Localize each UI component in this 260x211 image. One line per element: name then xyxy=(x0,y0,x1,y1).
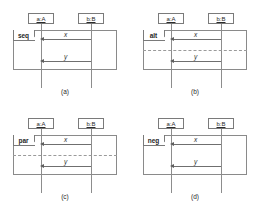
lifeline-label-right: b:B xyxy=(216,121,225,127)
panel-caption: (c) xyxy=(0,193,130,200)
message-line-x xyxy=(44,39,91,40)
message-arrowhead-y xyxy=(170,164,174,168)
sequence-diagram-figure: a:A b:B seq x y (a) a:A xyxy=(0,0,260,211)
message-arrowhead-y xyxy=(40,59,44,63)
message-label-x: x xyxy=(194,31,197,38)
message-arrowhead-x xyxy=(40,142,44,146)
lifeline-label-left: a:A xyxy=(36,16,45,22)
fragment-operator-tag-outline xyxy=(143,30,165,41)
panel-b: a:A b:B alt x y (b) xyxy=(130,0,260,105)
lifeline-head-right: b:B xyxy=(208,118,234,129)
panel-a: a:A b:B seq x y (a) xyxy=(0,0,130,105)
message-arrowhead-x xyxy=(170,37,174,41)
message-label-y: y xyxy=(194,158,197,165)
lifeline-head-right: b:B xyxy=(208,13,234,24)
lifeline-head-left: a:A xyxy=(158,118,184,129)
operand-divider xyxy=(143,50,247,51)
panel-caption: (d) xyxy=(130,193,260,200)
message-label-y: y xyxy=(194,53,197,60)
lifeline-head-right: b:B xyxy=(78,13,104,24)
message-label-x: x xyxy=(64,31,67,38)
fragment-operator-tag-outline xyxy=(13,30,35,41)
lifeline-label-right: b:B xyxy=(86,16,95,22)
panel-caption: (a) xyxy=(0,88,130,95)
lifeline-label-left: a:A xyxy=(36,121,45,127)
message-line-y xyxy=(174,61,221,62)
message-line-x xyxy=(174,39,221,40)
message-arrowhead-y xyxy=(170,59,174,63)
lifeline-label-left: a:A xyxy=(166,16,175,22)
message-label-y: y xyxy=(64,53,67,60)
message-arrowhead-x xyxy=(170,142,174,146)
lifeline-head-left: a:A xyxy=(158,13,184,24)
fragment-operator-tag-outline xyxy=(13,135,35,146)
panel-caption: (b) xyxy=(130,88,260,95)
lifeline-head-left: a:A xyxy=(28,118,54,129)
message-line-y xyxy=(44,61,91,62)
message-label-x: x xyxy=(64,136,67,143)
message-label-y: y xyxy=(64,158,67,165)
message-line-x xyxy=(174,144,221,145)
lifeline-head-left: a:A xyxy=(28,13,54,24)
lifeline-head-right: b:B xyxy=(78,118,104,129)
message-arrowhead-x xyxy=(40,37,44,41)
lifeline-label-left: a:A xyxy=(166,121,175,127)
message-label-x: x xyxy=(194,136,197,143)
message-line-y xyxy=(174,166,221,167)
lifeline-label-right: b:B xyxy=(86,121,95,127)
message-line-y xyxy=(44,166,91,167)
message-arrowhead-y xyxy=(40,164,44,168)
operand-divider xyxy=(13,155,117,156)
message-line-x xyxy=(44,144,91,145)
fragment-operator-tag-outline xyxy=(143,135,165,146)
panel-d: a:A b:B neg x y (d) xyxy=(130,105,260,210)
panel-c: a:A b:B par x y (c) xyxy=(0,105,130,210)
lifeline-label-right: b:B xyxy=(216,16,225,22)
